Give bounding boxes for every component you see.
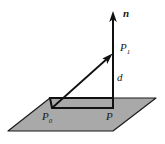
point-p1-label: P1 [120,42,130,53]
point-p1-letter: P [120,41,127,53]
distance-label: d [117,72,123,83]
projection-rectangle [50,98,113,108]
normal-vector-label: n [123,8,129,19]
plane-point-distance-diagram [0,0,165,144]
point-p0-letter: P [42,110,49,122]
point-p1-subscript: 1 [127,48,130,55]
point-p-label: P [106,111,113,122]
point-p0-subscript: 0 [49,117,52,124]
point-p0-label: P0 [42,111,52,122]
figure-container: n P1 d P0 P [0,0,165,144]
